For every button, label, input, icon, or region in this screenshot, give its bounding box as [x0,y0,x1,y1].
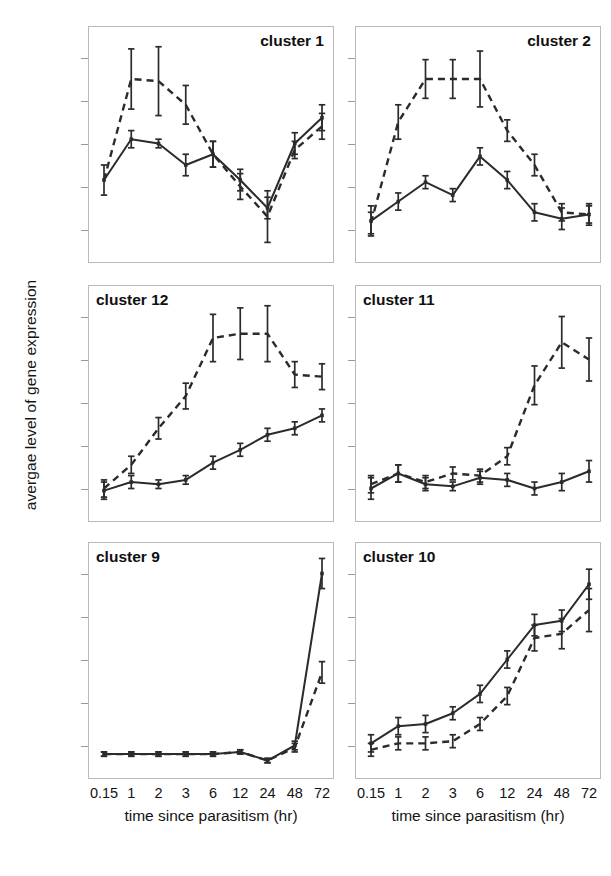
data-point-marker [587,582,591,586]
data-point-marker [396,724,400,728]
y-tick-mark [81,746,88,747]
x-tick-labels-left: 0.15123612244872 [88,785,334,805]
panel-title: cluster 12 [96,291,168,309]
x-tick-label: 12 [232,785,248,801]
y-tick-mark [81,230,88,231]
chart-panel-cluster-12: cluster 12 [78,281,340,526]
x-tick-label: 72 [581,785,597,801]
x-tick-label: 0.15 [357,785,385,801]
data-point-marker [478,692,482,696]
y-tick-mark [81,489,88,490]
data-point-marker [505,658,509,662]
panel-title: cluster 10 [363,548,435,566]
x-tick-label: 48 [287,785,303,801]
y-tick-mark [81,446,88,447]
data-point-marker [211,461,215,465]
x-tick-label: 0.15 [90,785,118,801]
chart-panel-cluster-11: cluster 11 [345,281,607,526]
plot-area [355,285,601,522]
series-solid [368,148,592,236]
y-axis-label-text: avergae level of gene expression [22,280,40,511]
x-axis-left-column: 0.15123612244872 time since parasitism (… [88,785,334,831]
plot-area [355,542,601,779]
data-point-marker [424,180,428,184]
y-tick-mark [348,489,355,490]
x-tick-label: 1 [127,785,135,801]
panel-title: cluster 9 [96,548,160,566]
data-point-marker [505,178,509,182]
y-tick-mark [348,574,355,575]
chart-panel-cluster-1: cluster 1 [78,22,340,267]
y-tick-mark [81,144,88,145]
y-tick-mark [81,617,88,618]
x-tick-label: 2 [154,785,162,801]
x-tick-label: 24 [259,785,275,801]
data-point-marker [424,722,428,726]
data-point-marker [320,414,324,418]
x-tick-label: 12 [499,785,515,801]
y-tick-mark [348,617,355,618]
data-point-marker [533,211,537,215]
plot-area [88,542,334,779]
y-tick-mark [81,703,88,704]
x-tick-labels-right: 0.15123612244872 [355,785,601,805]
y-tick-mark [348,360,355,361]
y-tick-mark [348,101,355,102]
y-tick-mark [348,144,355,145]
x-tick-label: 3 [182,785,190,801]
chart-panel-cluster-2: cluster 2 [345,22,607,267]
y-tick-mark [81,403,88,404]
data-point-marker [238,448,242,452]
y-tick-mark [348,230,355,231]
plot-area [88,26,334,263]
plot-area [88,285,334,522]
chart-panel-cluster-9: cluster 9 [78,538,340,783]
y-tick-mark [348,446,355,447]
x-tick-label: 3 [449,785,457,801]
y-tick-mark [348,187,355,188]
y-tick-mark [81,574,88,575]
y-tick-mark [348,703,355,704]
series-dashed [368,589,592,757]
x-axis-label-right: time since parasitism (hr) [355,807,601,825]
x-tick-label: 72 [314,785,330,801]
panel-title: cluster 11 [363,291,435,309]
chart-panel-cluster-10: cluster 10 [345,538,607,783]
data-point-marker [478,155,482,159]
y-tick-mark [81,58,88,59]
y-tick-mark [348,746,355,747]
panel-title: cluster 2 [527,32,591,50]
x-tick-label: 24 [526,785,542,801]
series-dashed [368,317,592,493]
series-dashed [104,47,325,243]
data-point-marker [129,480,133,484]
panel-grid: cluster 1cluster 2cluster 12cluster 11cl… [78,22,611,782]
y-tick-mark [81,360,88,361]
data-point-marker [451,711,455,715]
data-point-marker [396,200,400,204]
data-point-marker [157,482,161,486]
x-tick-label: 2 [421,785,429,801]
data-point-marker [560,480,564,484]
data-point-marker [320,572,324,576]
x-tick-label: 6 [209,785,217,801]
y-axis-title: avergae level of gene expression [0,0,62,790]
x-axis-right-column: 0.15123612244872 time since parasitism (… [355,785,601,831]
data-point-marker [184,478,188,482]
y-tick-mark [348,403,355,404]
data-point-marker [184,163,188,167]
y-tick-mark [348,58,355,59]
x-axis-label-left: time since parasitism (hr) [88,807,334,825]
data-point-marker [587,470,591,474]
x-tick-label: 48 [554,785,570,801]
x-tick-label: 1 [394,785,402,801]
y-tick-mark [81,660,88,661]
y-tick-mark [348,317,355,318]
data-point-marker [451,485,455,489]
data-point-marker [533,487,537,491]
data-point-marker [451,193,455,197]
y-tick-mark [81,317,88,318]
data-point-marker [129,137,133,141]
data-point-marker [157,142,161,146]
series-solid [101,558,325,762]
